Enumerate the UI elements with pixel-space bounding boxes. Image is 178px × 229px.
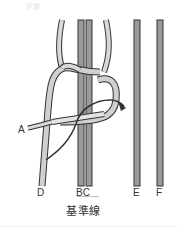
- label-a: A: [18, 124, 25, 135]
- cord-f: [157, 20, 163, 186]
- divider: [0, 226, 178, 227]
- core-cords-bc: [78, 20, 92, 186]
- label-f: F: [156, 187, 162, 198]
- brace-icon: [77, 196, 99, 199]
- label-e: E: [133, 187, 140, 198]
- baseline-label: 基準線: [66, 202, 101, 218]
- cord-e: [134, 20, 140, 186]
- label-d: D: [37, 187, 44, 198]
